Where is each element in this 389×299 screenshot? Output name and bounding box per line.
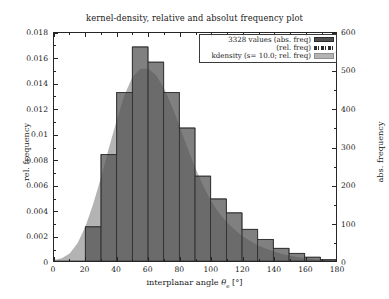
- y-tick-label-right: 400: [341, 104, 356, 113]
- y-tick-left: [54, 96, 56, 97]
- y-tick-label-right: 600: [341, 28, 356, 37]
- relative-frequency-outline: [54, 33, 336, 261]
- x-tick: [259, 259, 260, 261]
- x-tick: [290, 259, 291, 261]
- legend-swatch-kdensity: [314, 53, 334, 59]
- x-tick: [306, 257, 307, 261]
- x-tick-label: 100: [204, 265, 219, 274]
- y-tick-left: [54, 122, 56, 123]
- y-tick-right: [332, 186, 336, 187]
- x-tick-label: 160: [298, 265, 313, 274]
- y-tick-right: [332, 109, 336, 110]
- x-tick-top: [69, 33, 70, 35]
- x-tick: [164, 259, 165, 261]
- y-tick-left: [54, 224, 56, 225]
- y-tick-left: [54, 45, 56, 46]
- legend-swatch-abs-freq: [314, 37, 334, 43]
- legend-entry-abs-freq: 3328 values (abs. freq): [202, 36, 334, 44]
- x-tick: [180, 257, 181, 261]
- y-tick-left: [54, 173, 56, 174]
- x-tick-label: 20: [80, 265, 90, 274]
- x-axis-title-post: [°]: [229, 277, 242, 287]
- y-tick-left: [54, 186, 58, 187]
- x-tick: [227, 259, 228, 261]
- y-tick-left: [54, 58, 58, 59]
- y-tick-right: [334, 243, 336, 244]
- y-tick-left: [54, 71, 56, 72]
- y-tick-right: [334, 205, 336, 206]
- y-tick-label-right: 0: [341, 258, 346, 267]
- x-tick: [148, 257, 149, 261]
- x-tick: [85, 257, 86, 261]
- y-tick-label-left: 0.018: [26, 28, 48, 37]
- y-tick-right: [332, 71, 336, 72]
- y-tick-left: [54, 109, 58, 110]
- x-axis-title-pre: interplanar angle: [146, 277, 221, 287]
- x-tick: [196, 259, 197, 261]
- y-tick-left: [54, 199, 56, 200]
- y-tick-left: [54, 211, 58, 212]
- x-tick-label: 60: [143, 265, 153, 274]
- x-tick-top: [164, 33, 165, 35]
- y-tick-label-right: 500: [341, 66, 356, 75]
- y-tick-label-left: 0.01: [31, 130, 48, 139]
- y-tick-label-left: 0.016: [26, 53, 48, 62]
- x-tick-top: [54, 33, 55, 37]
- y-tick-right: [332, 224, 336, 225]
- x-axis-title: interplanar angle θe [°]: [0, 277, 389, 289]
- x-tick-label: 120: [235, 265, 250, 274]
- x-tick: [274, 257, 275, 261]
- x-tick: [322, 259, 323, 261]
- y-tick-right: [334, 167, 336, 168]
- x-tick-label: 80: [174, 265, 184, 274]
- y-tick-label-left: 0: [43, 258, 48, 267]
- chart-title: kernel-density, relative and absolut fre…: [0, 13, 389, 23]
- y-tick-right: [334, 90, 336, 91]
- y-tick-label-right: 300: [341, 143, 356, 152]
- y-axis-title-left: rel. frequency: [21, 77, 31, 227]
- x-tick: [101, 259, 102, 261]
- x-tick-top: [117, 33, 118, 37]
- x-tick-top: [180, 33, 181, 37]
- y-tick-label-right: 100: [341, 219, 356, 228]
- y-tick-label-right: 200: [341, 181, 356, 190]
- y-tick-right: [334, 128, 336, 129]
- x-tick-top: [85, 33, 86, 37]
- x-tick-top: [132, 33, 133, 35]
- x-tick: [54, 257, 55, 261]
- y-tick-right: [332, 148, 336, 149]
- x-tick: [243, 257, 244, 261]
- plot-inner: [54, 33, 336, 261]
- y-axis-title-right: abs. frequency: [375, 77, 385, 227]
- legend-entry-kdensity: kdensity (s= 10.0; rel. freq): [202, 52, 334, 60]
- chart-figure: kernel-density, relative and absolut fre…: [0, 0, 389, 299]
- x-tick-top: [101, 33, 102, 35]
- legend-swatch-rel-freq: [314, 46, 334, 50]
- x-tick-label: 40: [111, 265, 121, 274]
- x-tick: [132, 259, 133, 261]
- y-tick-left: [54, 250, 56, 251]
- y-tick-left: [54, 33, 58, 34]
- x-tick: [69, 259, 70, 261]
- x-tick-label: 0: [51, 265, 56, 274]
- y-tick-left: [54, 148, 56, 149]
- y-tick-left: [54, 84, 58, 85]
- chart-legend: 3328 values (abs. freq) (rel. freq) kden…: [199, 34, 337, 63]
- x-tick-top: [196, 33, 197, 35]
- y-tick-left: [54, 135, 58, 136]
- x-tick: [211, 257, 212, 261]
- plot-area: [53, 32, 337, 262]
- y-tick-left: [54, 237, 58, 238]
- x-tick: [117, 257, 118, 261]
- x-tick-top: [148, 33, 149, 37]
- y-tick-left: [54, 160, 58, 161]
- legend-label-kdensity: kdensity (s= 10.0; rel. freq): [211, 52, 311, 60]
- x-tick-label: 140: [267, 265, 282, 274]
- y-tick-label-left: 0.002: [26, 232, 48, 241]
